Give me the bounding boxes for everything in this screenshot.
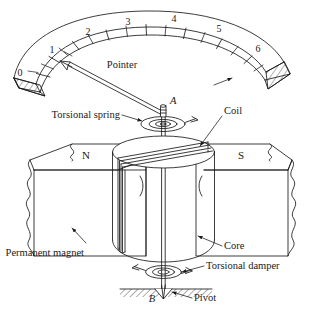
scale-number-0: 0 — [18, 67, 23, 78]
scale-number-6: 6 — [256, 43, 261, 54]
torsional-spring — [141, 117, 198, 132]
scale-number-4: 4 — [172, 13, 177, 24]
core-cylinder — [113, 136, 215, 262]
scale-number-5: 5 — [217, 23, 222, 34]
scale-numbers: 0 1 2 3 4 5 6 — [18, 13, 261, 78]
pointer-label: Pointer — [107, 59, 138, 70]
meter-movement-diagram: 0 1 2 3 4 5 6 Pointer Torsional spring C… — [0, 0, 322, 314]
permanent-magnet-label: Permanent magnet — [6, 247, 85, 258]
coil-label: Coil — [224, 105, 242, 116]
point-a-label: A — [169, 95, 177, 106]
torsional-damper-label: Torsional damper — [206, 260, 280, 271]
shaft-top-hub — [160, 105, 166, 117]
scale-number-1: 1 — [50, 44, 55, 55]
pole-north-label: N — [82, 149, 90, 161]
pole-south-label: S — [238, 149, 244, 161]
permanent-magnet-south — [196, 144, 296, 256]
figure-canvas: 0 1 2 3 4 5 6 Pointer Torsional spring C… — [0, 0, 322, 314]
point-b-label: B — [149, 293, 156, 304]
scale-number-2: 2 — [86, 26, 91, 37]
core-label: Core — [224, 240, 245, 251]
scale-number-3: 3 — [126, 16, 131, 27]
pivot-label: Pivot — [194, 292, 216, 303]
scale-arc — [14, 11, 290, 96]
torsional-spring-label: Torsional spring — [52, 109, 121, 120]
